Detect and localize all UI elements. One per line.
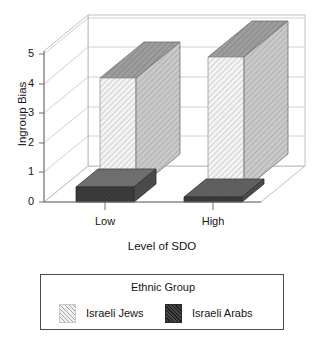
legend-label-israeli-arabs: Israeli Arabs — [192, 307, 253, 319]
hatched-light-swatch-icon — [59, 304, 76, 323]
y-tick-label-5: 5 — [18, 48, 34, 59]
figure: 5 4 3 2 1 0 Low High Ingroup Bias Level … — [0, 0, 324, 346]
chart-legend: Ethnic Group Israeli Jews Israeli Arabs — [40, 274, 284, 330]
x-tick-label-low: Low — [82, 216, 128, 227]
bar-chart-3d — [0, 0, 324, 262]
chart-plot-area: 5 4 3 2 1 0 Low High Ingroup Bias Level … — [0, 0, 324, 262]
x-tick-label-high: High — [190, 216, 236, 227]
x-axis — [44, 202, 261, 210]
legend-title: Ethnic Group — [41, 281, 285, 293]
y-tick-label-0: 0 — [18, 196, 34, 207]
x-axis-title: Level of SDO — [0, 240, 324, 252]
y-tick-label-1: 1 — [18, 166, 34, 177]
solid-dark-swatch-icon — [165, 304, 182, 323]
y-axis — [39, 51, 44, 202]
legend-label-israeli-jews: Israeli Jews — [86, 307, 143, 319]
y-axis-title: Ingroup Bias — [16, 64, 28, 164]
